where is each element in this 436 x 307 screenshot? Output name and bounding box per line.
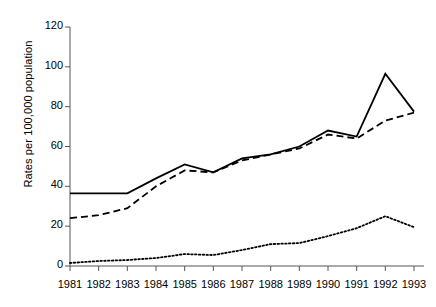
y-tick-label: 80 <box>29 99 63 111</box>
series-lines <box>70 74 414 263</box>
y-tick-label: 40 <box>29 178 63 190</box>
x-axis-ticks <box>70 266 414 271</box>
x-tick-label: 1993 <box>394 278 434 290</box>
y-axis-ticks <box>65 27 70 266</box>
plot-area <box>0 0 436 307</box>
series-line-dotted-series <box>70 216 414 263</box>
series-line-dashed-series <box>70 113 414 219</box>
line-chart: Rates per 100,000 population 02040608010… <box>0 0 436 307</box>
y-tick-label: 0 <box>29 258 63 270</box>
axis-lines <box>70 27 424 266</box>
y-tick-label: 100 <box>29 59 63 71</box>
y-tick-label: 20 <box>29 218 63 230</box>
series-line-solid-series <box>70 74 414 194</box>
y-tick-label: 120 <box>29 19 63 31</box>
y-tick-label: 60 <box>29 139 63 151</box>
